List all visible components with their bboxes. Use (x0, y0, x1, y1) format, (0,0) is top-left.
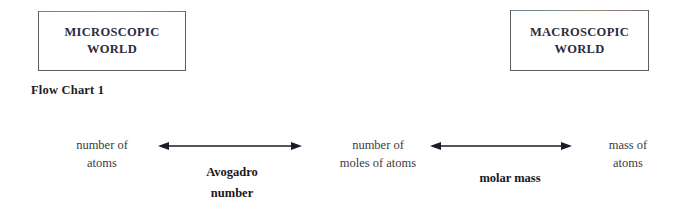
microscopic-world-box: MICROSCOPIC WORLD (38, 11, 186, 71)
macroscopic-world-label: MACROSCOPIC WORLD (530, 24, 629, 58)
macroscopic-world-box: MACROSCOPIC WORLD (510, 10, 649, 71)
edge-label-molar-mass: molar mass (447, 168, 573, 189)
double-headed-arrow-icon (430, 139, 572, 153)
arrow-avogadro-number (158, 139, 302, 153)
edge-label-avogadro-number: Avogadro number (180, 162, 284, 204)
double-headed-arrow-icon (158, 139, 302, 153)
flow-chart-caption: Flow Chart 1 (31, 83, 104, 98)
node-number-of-moles-of-atoms: number of moles of atoms (318, 136, 438, 172)
node-number-of-atoms: number of atoms (47, 136, 157, 172)
arrow-molar-mass (430, 139, 572, 153)
flow-chart-canvas: MICROSCOPIC WORLD MACROSCOPIC WORLD Flow… (0, 0, 686, 215)
node-mass-of-atoms: mass of atoms (578, 136, 678, 172)
microscopic-world-label: MICROSCOPIC WORLD (65, 24, 160, 58)
